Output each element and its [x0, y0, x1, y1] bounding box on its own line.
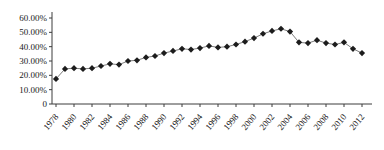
x-axis-labels: 1978198019821984198619881990199219941996…	[41, 111, 366, 132]
x-tick-label: 2004	[275, 111, 295, 132]
x-tick-label: 1990	[149, 111, 169, 132]
x-tick-label: 1978	[41, 111, 61, 132]
data-point-marker	[89, 65, 95, 71]
data-point-marker	[233, 41, 239, 47]
data-point-marker	[71, 65, 77, 71]
data-point-marker	[206, 43, 212, 49]
axes	[52, 12, 372, 104]
y-tick-label: 60.00%	[19, 13, 47, 23]
data-point-marker	[80, 66, 86, 72]
data-point-marker	[332, 41, 338, 47]
data-point-marker	[224, 44, 230, 50]
data-point-marker	[260, 31, 266, 37]
data-point-marker	[314, 37, 320, 43]
x-tick-label: 2008	[311, 111, 331, 132]
data-line	[56, 29, 362, 79]
x-tick-label: 1986	[113, 111, 133, 132]
data-point-marker	[188, 46, 194, 52]
y-tick-label: 10.00%	[19, 85, 47, 95]
x-tick-label: 1980	[59, 111, 79, 132]
data-point-marker	[98, 63, 104, 69]
data-point-marker	[116, 61, 122, 67]
x-tick-label: 1984	[95, 111, 115, 132]
x-tick-label: 1996	[203, 111, 223, 132]
chart-canvas: 010.00%20.00%30.00%40.00%50.00%60.00%197…	[0, 0, 384, 150]
y-tick-label: 20.00%	[19, 70, 47, 80]
y-axis-labels: 010.00%20.00%30.00%40.00%50.00%60.00%	[19, 13, 47, 109]
data-point-marker	[305, 40, 311, 46]
data-point-marker	[170, 48, 176, 54]
data-point-marker	[152, 53, 158, 59]
data-point-marker	[161, 50, 167, 56]
data-point-marker	[134, 57, 140, 63]
data-point-marker	[107, 61, 113, 67]
x-tick-label: 2002	[257, 112, 276, 132]
x-tick-label: 2000	[239, 111, 259, 132]
x-tick-label: 2012	[347, 112, 366, 132]
data-point-marker	[215, 44, 221, 50]
x-tick-label: 2006	[293, 111, 313, 132]
y-tick-label: 40.00%	[19, 42, 47, 52]
y-tick-label: 0	[43, 99, 48, 109]
x-tick-label: 1982	[77, 112, 96, 132]
data-point-marker	[278, 26, 284, 32]
x-tick-label: 1988	[131, 111, 151, 132]
data-point-marker	[179, 46, 185, 52]
data-point-marker	[197, 45, 203, 51]
data-point-marker	[125, 58, 131, 64]
data-point-marker	[143, 54, 149, 60]
data-point-marker	[269, 28, 275, 34]
data-point-marker	[242, 39, 248, 45]
data-point-marker	[359, 50, 365, 56]
y-tick-label: 30.00%	[19, 56, 47, 66]
line-chart: 010.00%20.00%30.00%40.00%50.00%60.00%197…	[0, 0, 384, 150]
data-point-marker	[251, 35, 257, 41]
x-tick-label: 1994	[185, 111, 205, 132]
data-point-marker	[323, 40, 329, 46]
x-tick-label: 1992	[167, 112, 186, 132]
x-tick-label: 2010	[329, 111, 349, 132]
data-markers	[53, 26, 365, 82]
x-tick-label: 1998	[221, 111, 241, 132]
y-tick-label: 50.00%	[19, 27, 47, 37]
